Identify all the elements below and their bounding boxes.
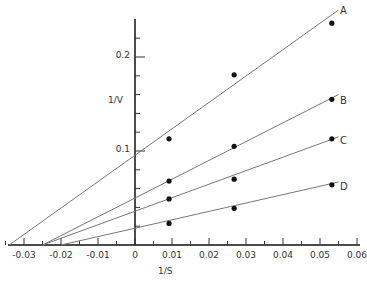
data-point-a	[166, 136, 171, 141]
x-tick-label: -0.01	[86, 250, 109, 260]
data-point-b	[329, 97, 334, 102]
x-tick-label: -0.03	[12, 250, 35, 260]
data-point-b	[166, 178, 171, 183]
x-tick-label: 0.06	[347, 250, 367, 260]
series-label-c: C	[340, 135, 347, 146]
fit-line-d	[61, 182, 339, 245]
x-tick-label: 0	[132, 250, 138, 260]
fit-line-a	[9, 10, 338, 245]
x-tick-label: 0.02	[199, 250, 219, 260]
x-tick-label: 0.01	[162, 250, 182, 260]
fit-line-c	[43, 137, 339, 245]
data-point-c	[232, 177, 237, 182]
series-label-b: B	[340, 95, 347, 106]
data-point-d	[166, 221, 171, 226]
data-point-d	[329, 182, 334, 187]
series-label-d: D	[340, 181, 348, 192]
data-point-c	[166, 196, 171, 201]
x-tick-label: 0.04	[273, 250, 293, 260]
data-point-a	[232, 72, 237, 77]
y-tick-label: 0.1	[100, 144, 130, 154]
x-tick-label: 0.03	[236, 250, 256, 260]
series-label-a: A	[340, 5, 347, 16]
x-tick-label: -0.02	[49, 250, 72, 260]
data-point-b	[232, 144, 237, 149]
data-point-d	[232, 206, 237, 211]
x-axis-title: 1/S	[158, 266, 172, 276]
y-axis-title: 1/V	[108, 95, 123, 105]
data-point-c	[329, 136, 334, 141]
x-tick-label: 0.05	[310, 250, 330, 260]
fit-line-b	[43, 95, 339, 245]
data-point-a	[329, 21, 334, 26]
y-tick-label: 0.2	[100, 50, 130, 60]
